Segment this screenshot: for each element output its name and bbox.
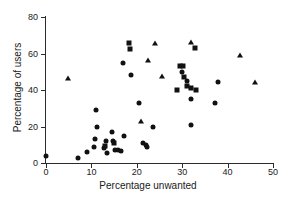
data-point-circle bbox=[93, 108, 98, 113]
data-point-circle bbox=[84, 150, 89, 155]
data-point-square bbox=[127, 40, 132, 45]
data-point-square bbox=[174, 88, 179, 93]
data-point-circle bbox=[213, 100, 218, 105]
plot-area bbox=[46, 17, 273, 163]
y-tick-mark bbox=[41, 90, 45, 91]
x-tick-label: 0 bbox=[34, 168, 58, 177]
data-point-circle bbox=[215, 79, 220, 84]
x-tick-label: 40 bbox=[216, 168, 240, 177]
data-point-triangle bbox=[65, 76, 71, 81]
data-point-square bbox=[193, 88, 198, 93]
y-tick-mark bbox=[41, 17, 45, 18]
data-point-square bbox=[103, 143, 108, 148]
x-axis-line bbox=[45, 163, 274, 164]
data-point-circle bbox=[129, 73, 134, 78]
y-axis-line bbox=[45, 16, 46, 164]
y-tick-mark bbox=[41, 127, 45, 128]
data-point-circle bbox=[180, 69, 185, 74]
x-tick-label: 50 bbox=[261, 168, 285, 177]
data-point-circle bbox=[93, 137, 98, 142]
data-point-triangle bbox=[152, 40, 158, 45]
data-point-triangle bbox=[188, 39, 194, 44]
data-point-circle bbox=[105, 150, 110, 155]
x-tick-label: 20 bbox=[125, 168, 149, 177]
data-point-square bbox=[127, 46, 132, 51]
data-point-square bbox=[192, 46, 197, 51]
data-point-square bbox=[112, 140, 117, 145]
y-tick-mark bbox=[41, 54, 45, 55]
data-point-triangle bbox=[138, 119, 144, 124]
scatter-chart-figure: 020406080 01020304050 Percentage unwante… bbox=[0, 0, 296, 200]
data-point-triangle bbox=[159, 74, 165, 79]
data-point-square bbox=[181, 75, 186, 80]
data-point-circle bbox=[121, 60, 126, 65]
data-point-circle bbox=[122, 133, 127, 138]
data-point-square bbox=[181, 64, 186, 69]
data-point-circle bbox=[94, 124, 99, 129]
data-point-circle bbox=[119, 149, 124, 154]
data-point-circle bbox=[150, 124, 155, 129]
data-point-circle bbox=[75, 155, 80, 160]
data-point-circle bbox=[189, 122, 194, 127]
y-tick-mark bbox=[41, 163, 45, 164]
data-point-circle bbox=[109, 129, 114, 134]
x-axis-label: Percentage unwanted bbox=[0, 180, 296, 191]
data-point-triangle bbox=[252, 79, 258, 84]
data-point-circle bbox=[137, 100, 142, 105]
data-point-triangle bbox=[237, 53, 243, 58]
data-point-circle bbox=[91, 144, 96, 149]
x-tick-label: 10 bbox=[79, 168, 103, 177]
data-point-circle bbox=[44, 153, 49, 158]
y-axis-label: Percentage of users bbox=[12, 13, 23, 163]
data-point-circle bbox=[144, 144, 149, 149]
x-tick-label: 30 bbox=[170, 168, 194, 177]
data-point-circle bbox=[189, 97, 194, 102]
data-point-triangle bbox=[145, 57, 151, 62]
